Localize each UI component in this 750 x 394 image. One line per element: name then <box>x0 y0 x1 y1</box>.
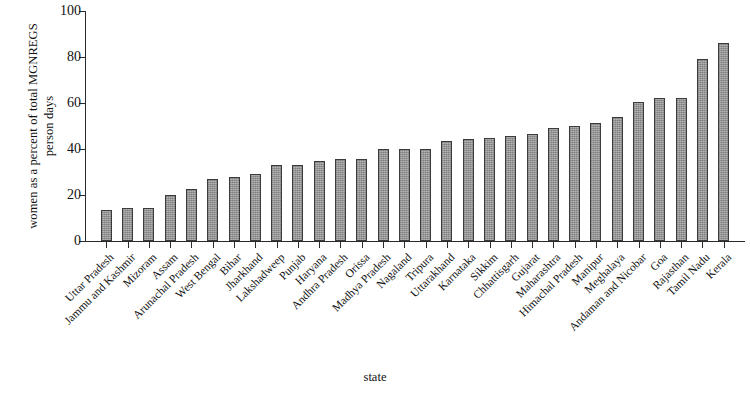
bar <box>612 117 623 241</box>
bar <box>356 159 367 241</box>
bar <box>292 165 303 241</box>
x-axis-line <box>85 241 745 242</box>
bar <box>314 161 325 242</box>
bar <box>101 210 112 241</box>
bar <box>186 189 197 241</box>
bar <box>633 102 644 241</box>
x-axis-label: state <box>0 370 750 385</box>
bar <box>122 208 133 241</box>
bar-chart: women as a percent of total MGNREGS pers… <box>0 0 750 394</box>
y-tick-label: 100 <box>60 4 81 18</box>
y-tick-label: 20 <box>67 188 81 202</box>
bar <box>271 165 282 241</box>
bar <box>165 195 176 241</box>
bar <box>207 179 218 241</box>
y-tick-label: 40 <box>67 142 81 156</box>
y-tick-label: 0 <box>74 234 81 248</box>
x-axis-tick-labels: Uttar PradeshJammu and KashmirMizoramAss… <box>85 248 745 358</box>
bar <box>484 138 495 242</box>
bar <box>676 98 687 241</box>
bar <box>229 177 240 241</box>
y-tick-label: 60 <box>67 96 81 110</box>
y-axis-label: women as a percent of total MGNREGS pers… <box>25 11 57 241</box>
bar <box>569 126 580 241</box>
bar <box>548 128 559 241</box>
bar <box>378 149 389 241</box>
bar <box>250 174 261 241</box>
bar <box>505 136 516 241</box>
bar <box>399 149 410 241</box>
bar <box>590 123 601 241</box>
bar <box>463 139 474 241</box>
bar <box>527 134 538 241</box>
bar <box>420 149 431 241</box>
bar <box>697 59 708 241</box>
bar <box>335 159 346 241</box>
bar <box>441 141 452 241</box>
bar <box>143 208 154 241</box>
y-axis-line <box>85 11 86 242</box>
bar <box>654 98 665 241</box>
bar <box>718 43 729 241</box>
y-tick-label: 80 <box>67 50 81 64</box>
plot-area: 020406080100 <box>85 11 745 241</box>
